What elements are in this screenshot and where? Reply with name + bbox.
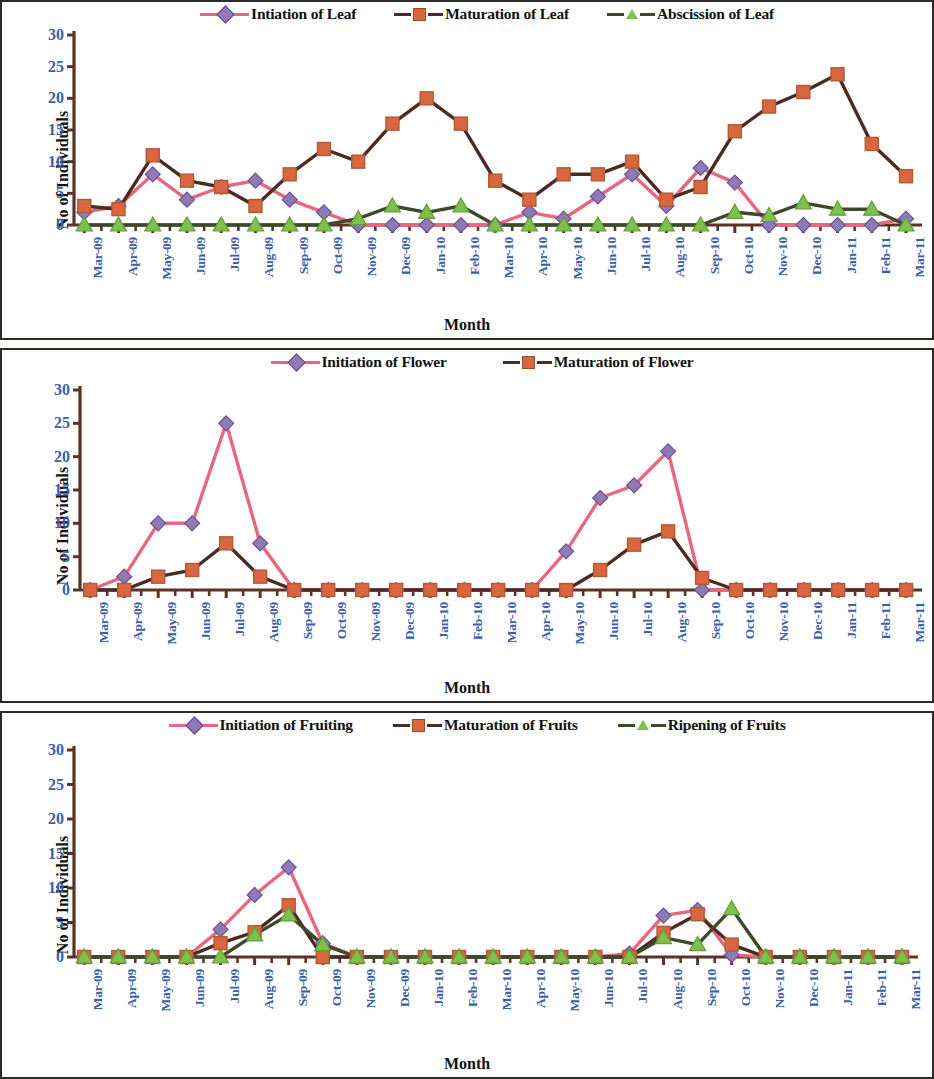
x-axis-tick-label: Mar-09 xyxy=(90,969,106,1010)
x-axis-tick-label: May-10 xyxy=(567,969,583,1011)
x-axis-tick-label: Mar-11 xyxy=(912,237,928,277)
x-axis-tick-label: May-09 xyxy=(164,602,180,644)
x-axis-tick-label: Nov-09 xyxy=(368,602,384,641)
x-axis-tick-label: Mar-09 xyxy=(96,602,112,643)
x-axis-tick-label: Dec-09 xyxy=(397,969,413,1007)
x-axis-tick-label: Feb-11 xyxy=(874,969,890,1006)
x-axis-tick-label: Jul-09 xyxy=(232,602,248,636)
x-axis-tick-label: Jun-09 xyxy=(192,969,208,1007)
x-axis-tick-label: Sep-09 xyxy=(300,602,316,639)
x-axis-tick-label: Feb-11 xyxy=(878,237,894,274)
x-axis-tick-label: Apr-10 xyxy=(538,602,554,641)
chart-panel-fruit: Initiation of Fruiting Maturation of Fru… xyxy=(0,711,934,1079)
phenology-figure: Intiation of Leaf Maturation of Leaf Abs… xyxy=(0,0,934,1079)
x-axis-tick-label: Oct-10 xyxy=(738,969,754,1006)
x-axis-tick-label: Mar-10 xyxy=(501,237,517,278)
x-axis-tick-label: Mar-11 xyxy=(908,969,924,1009)
x-axis-tick-label: Aug-10 xyxy=(670,969,686,1009)
x-axis-tick-label: Mar-11 xyxy=(912,602,928,642)
x-axis-tick-label: Jun-09 xyxy=(193,237,209,275)
x-axis-tick-label: Oct-09 xyxy=(330,237,346,274)
x-axis-tick-label: Jun-10 xyxy=(604,237,620,275)
x-axis-tick-label: May-10 xyxy=(570,237,586,279)
x-axis-tick-label: Apr-10 xyxy=(535,237,551,276)
x-axis-tick-label: Jan-10 xyxy=(436,602,452,639)
x-axis-tick-label: Sep-09 xyxy=(295,969,311,1006)
x-axis-tick-label: Aug-09 xyxy=(261,969,277,1009)
x-axis-tick-label: Feb-11 xyxy=(878,602,894,639)
plot-area-flower: No of Individuals 051015202530 Mar-09Apr… xyxy=(2,350,932,701)
x-axis-tick-label: Apr-09 xyxy=(130,602,146,641)
x-axis-tick-label: Apr-10 xyxy=(533,969,549,1008)
x-axis-tick-label: Mar-09 xyxy=(90,237,106,278)
plot-area-fruit: No of Individuals 051015202530 Mar-09Apr… xyxy=(2,713,932,1077)
x-axis-tick-label: Sep-10 xyxy=(704,969,720,1006)
x-axis-title: Month xyxy=(2,1055,932,1073)
plot-area-leaf: No of Individuals 051015202530 Mar-09Apr… xyxy=(2,2,932,338)
x-axis-tick-label: Mar-10 xyxy=(504,602,520,643)
chart-svg-leaf xyxy=(2,2,934,338)
x-axis-tick-label: Oct-10 xyxy=(742,602,758,639)
x-axis-tick-label: Aug-10 xyxy=(672,237,688,277)
x-axis-tick-label: Dec-10 xyxy=(806,969,822,1007)
x-axis-tick-label: Jul-09 xyxy=(227,237,243,271)
x-axis-tick-label: Jan-11 xyxy=(844,237,860,273)
x-axis-tick-label: May-09 xyxy=(158,969,174,1011)
x-axis-tick-label: May-10 xyxy=(572,602,588,644)
x-axis-tick-label: Jun-10 xyxy=(606,602,622,640)
x-axis-tick-label: Oct-10 xyxy=(741,237,757,274)
x-axis-tick-label: Feb-10 xyxy=(470,602,486,640)
chart-panel-leaf: Intiation of Leaf Maturation of Leaf Abs… xyxy=(0,0,934,340)
x-axis-tick-label: Jul-10 xyxy=(635,969,651,1003)
x-axis-tick-label: Apr-09 xyxy=(124,969,140,1008)
x-axis-tick-label: Jun-10 xyxy=(601,969,617,1007)
x-axis-tick-label: Nov-09 xyxy=(363,969,379,1008)
x-axis-tick-label: Nov-10 xyxy=(776,602,792,641)
x-axis-tick-label: Nov-10 xyxy=(772,969,788,1008)
x-axis-tick-label: Nov-09 xyxy=(364,237,380,276)
x-axis-tick-label: Jan-11 xyxy=(840,969,856,1005)
chart-panel-flower: Initiation of Flower Maturation of Flowe… xyxy=(0,348,934,703)
x-axis-tick-label: Nov-10 xyxy=(775,237,791,276)
x-axis-tick-label: Oct-09 xyxy=(334,602,350,639)
chart-svg-fruit xyxy=(2,713,934,1077)
x-axis-tick-label: Feb-10 xyxy=(467,237,483,275)
x-axis-tick-label: Aug-09 xyxy=(266,602,282,642)
x-axis-title: Month xyxy=(2,316,932,334)
chart-svg-flower xyxy=(2,350,934,701)
x-axis-tick-label: Jul-10 xyxy=(640,602,656,636)
x-axis-tick-label: Oct-09 xyxy=(329,969,345,1006)
x-axis-tick-label: Dec-09 xyxy=(398,237,414,275)
x-axis-title: Month xyxy=(2,679,932,697)
x-axis-tick-label: May-09 xyxy=(159,237,175,279)
x-axis-tick-label: Jul-09 xyxy=(227,969,243,1003)
x-axis-tick-label: Jul-10 xyxy=(638,237,654,271)
x-axis-tick-label: Jan-11 xyxy=(844,602,860,638)
x-axis-tick-label: Jan-10 xyxy=(433,237,449,274)
x-axis-tick-label: Sep-10 xyxy=(708,602,724,639)
x-axis-tick-label: Aug-09 xyxy=(261,237,277,277)
x-axis-tick-label: Sep-09 xyxy=(296,237,312,274)
x-axis-tick-label: Jun-09 xyxy=(198,602,214,640)
x-axis-tick-label: Sep-10 xyxy=(707,237,723,274)
x-axis-tick-label: Jan-10 xyxy=(431,969,447,1006)
x-axis-tick-label: Dec-09 xyxy=(402,602,418,640)
x-axis-tick-label: Dec-10 xyxy=(810,602,826,640)
x-axis-tick-label: Feb-10 xyxy=(465,969,481,1007)
x-axis-tick-label: Aug-10 xyxy=(674,602,690,642)
x-axis-tick-label: Dec-10 xyxy=(809,237,825,275)
x-axis-tick-label: Mar-10 xyxy=(499,969,515,1010)
x-axis-tick-label: Apr-09 xyxy=(125,237,141,276)
